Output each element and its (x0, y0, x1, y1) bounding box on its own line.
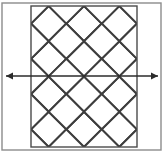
figure-container (0, 0, 164, 156)
diamond-lattice (13, 0, 154, 156)
figure-canvas (0, 0, 164, 156)
